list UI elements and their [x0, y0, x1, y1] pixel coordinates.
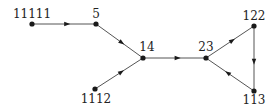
arrowhead-icon [64, 22, 70, 26]
node-label-23: 23 [198, 40, 213, 54]
node-1112 [92, 86, 97, 91]
node-5 [93, 21, 98, 26]
node-label-11111: 11111 [13, 7, 51, 21]
node-11111 [29, 21, 34, 26]
node-label-14: 14 [139, 40, 155, 54]
nodes-layer [29, 21, 256, 93]
arrowhead-icon [229, 39, 235, 44]
node-122 [251, 23, 256, 28]
arrowhead-icon [225, 71, 231, 76]
arrows-layer [64, 22, 256, 77]
arrowhead-icon [252, 59, 256, 65]
arrowhead-icon [175, 56, 181, 60]
node-label-122: 122 [243, 9, 266, 23]
graph-canvas: 11111514111223122113 [0, 0, 279, 109]
node-14 [140, 55, 145, 60]
labels-layer: 11111514111223122113 [13, 7, 266, 107]
node-label-5: 5 [92, 7, 100, 21]
arrowhead-icon [118, 39, 124, 44]
node-label-1112: 1112 [81, 92, 112, 106]
node-label-113: 113 [243, 93, 266, 107]
node-23 [203, 55, 208, 60]
arrowhead-icon [118, 70, 124, 75]
graph-diagram: 11111514111223122113 [0, 0, 279, 109]
